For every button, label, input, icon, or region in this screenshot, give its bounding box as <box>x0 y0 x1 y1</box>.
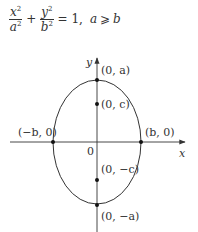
vertex-right-point <box>139 140 143 144</box>
vertex-bottom-point <box>95 203 99 207</box>
focus-bottom-label: (0, −c) <box>101 163 139 176</box>
vertex-left-point <box>51 140 55 144</box>
vertex-top-label: (0, a) <box>101 64 130 77</box>
y-axis-label: y <box>85 56 93 69</box>
focus-top-point <box>95 102 99 106</box>
x-axis-label: x <box>179 147 186 160</box>
vertex-right-label: (b, 0) <box>145 126 175 139</box>
vertex-left-label: (−b, 0) <box>18 126 57 139</box>
origin-label: 0 <box>87 145 94 158</box>
focus-bottom-point <box>95 178 99 182</box>
vertex-top-point <box>95 78 99 82</box>
ellipse-diagram: y x 0 (0, a) (0, c) (−b, 0) (b, 0) (0, −… <box>0 0 198 232</box>
vertex-bottom-label: (0, −a) <box>101 210 139 223</box>
focus-top-label: (0, c) <box>101 98 130 111</box>
